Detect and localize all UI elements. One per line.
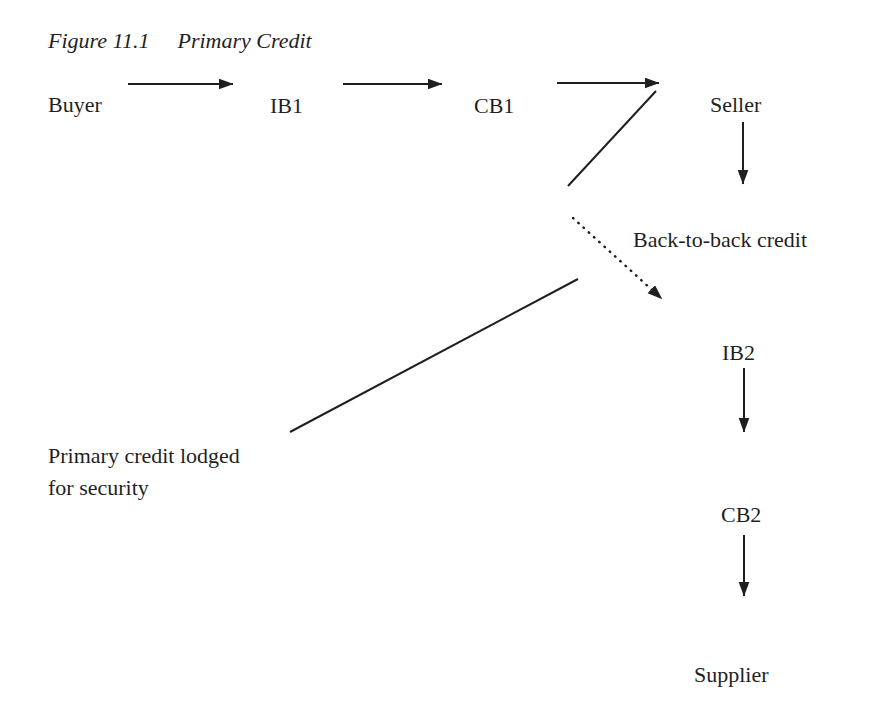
node-cb2: CB2 [721,502,761,528]
node-supplier: Supplier [694,662,769,688]
node-ib1: IB1 [270,93,303,119]
label-primary-credit-lodged: Primary credit lodged for security [48,440,298,504]
node-seller: Seller [710,92,761,118]
line-primary-credit-lodged [290,279,578,432]
figure-number: Figure 11.1 [48,28,149,53]
node-cb1: CB1 [474,93,514,119]
label-primary-credit-lodged-line2: for security [48,472,298,504]
figure-canvas: Figure 11.1Primary Credit Buyer IB1 CB1 … [0,0,879,725]
label-back-to-back-credit: Back-to-back credit [633,227,807,253]
figure-caption: Figure 11.1Primary Credit [48,28,312,54]
figure-title: Primary Credit [177,28,311,53]
label-primary-credit-lodged-line1: Primary credit lodged [48,440,298,472]
line-join-to-seller-arrowhead [568,91,656,186]
node-buyer: Buyer [48,92,102,118]
node-ib2: IB2 [722,340,755,366]
